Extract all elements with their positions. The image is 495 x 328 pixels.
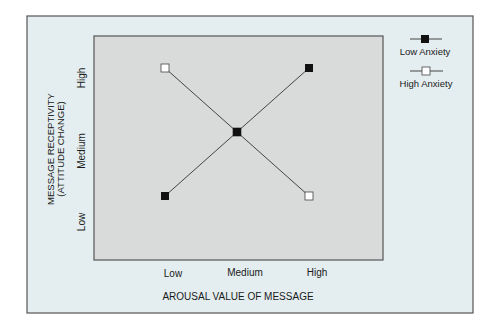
chart: Low Medium High MESSAGE RECEPTIVITY (ATT… bbox=[0, 0, 495, 328]
legend-label-high-anxiety: High Anxiety bbox=[400, 78, 453, 89]
plot-area bbox=[94, 36, 383, 260]
y-tick-label: Low bbox=[76, 212, 87, 231]
x-axis-label: AROUSAL VALUE OF MESSAGE bbox=[162, 291, 313, 302]
x-tick-label: High bbox=[307, 267, 328, 278]
data-point-high-anxiety bbox=[161, 64, 169, 72]
data-point-low-anxiety bbox=[161, 192, 169, 200]
data-point-low-anxiety bbox=[305, 64, 313, 72]
data-point-low-anxiety bbox=[233, 128, 241, 136]
y-axis-label-line2: (ATTITUDE CHANGE) bbox=[55, 101, 66, 196]
legend-marker-high-anxiety bbox=[422, 67, 430, 75]
x-tick-label: Medium bbox=[227, 267, 263, 278]
x-tick-label: Low bbox=[164, 268, 183, 279]
legend-marker-low-anxiety bbox=[421, 35, 429, 43]
data-point-high-anxiety bbox=[305, 192, 313, 200]
y-tick-label: Medium bbox=[76, 133, 87, 169]
legend-label-low-anxiety: Low Anxiety bbox=[400, 46, 451, 57]
y-tick-label: High bbox=[76, 68, 87, 89]
